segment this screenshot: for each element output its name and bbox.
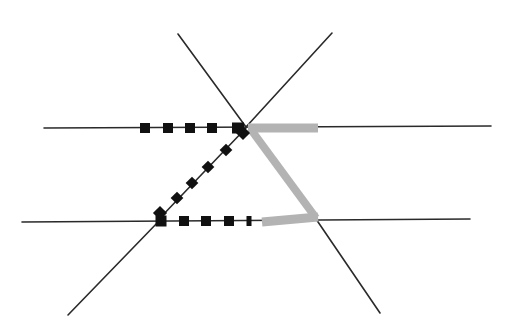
lower-horizontal-line [22,219,470,222]
square-marker [163,123,173,133]
square-marker [224,216,234,226]
square-marker [185,123,195,133]
gray-lower-segment [262,217,318,222]
lower-left-diagonal-line [68,220,160,315]
square-marker [247,216,252,226]
gray-diagonal-segment [252,131,316,218]
square-marker [179,216,189,226]
diagram-canvas [0,0,510,336]
gray-path [248,128,318,222]
black-dotted-path [140,123,252,227]
upper-left-diagonal-line [178,34,246,127]
line-layer [22,33,491,315]
lower-right-diagonal-line [316,219,380,313]
upper-right-diagonal-line [246,33,332,127]
diamond-marker [186,177,199,190]
diamond-marker [171,192,184,205]
square-marker [201,216,211,226]
connecting-diagonal-line [160,128,246,218]
square-marker [207,123,217,133]
square-marker [140,123,150,133]
